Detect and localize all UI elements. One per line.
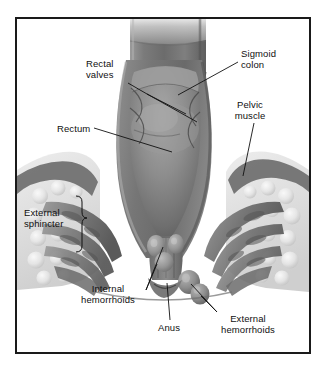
label-pelvic-muscle-line2: muscle — [235, 110, 266, 121]
label-pelvic-muscle: Pelvicmuscle — [222, 99, 278, 121]
label-pelvic-muscle-line1: Pelvic — [237, 99, 263, 110]
label-sigmoid-colon: Sigmoidcolon — [241, 48, 276, 70]
label-external-sphincter-line2: sphincter — [24, 218, 63, 229]
label-external-sphincter: Externalsphincter — [24, 207, 63, 229]
label-sigmoid-colon-line1: Sigmoid — [241, 48, 276, 59]
label-external-sphincter-line1: External — [24, 207, 60, 218]
anatomy-figure: Rectalvalves Sigmoidcolon Rectum Pelvicm… — [0, 0, 327, 375]
label-anus: Anus — [144, 322, 194, 333]
label-sigmoid-colon-line2: colon — [241, 59, 264, 70]
label-rectal-valves: Rectalvalves — [86, 58, 114, 80]
label-internal-hemorrhoids-line2: hemorrhoids — [81, 294, 135, 305]
label-rectum: Rectum — [57, 123, 90, 134]
label-external-hemorrhoids-line1: External — [230, 313, 266, 324]
label-external-hemorrhoids: Externalhemorrhoids — [196, 313, 300, 335]
label-internal-hemorrhoids: Internalhemorrhoids — [56, 283, 160, 305]
label-anus-text: Anus — [158, 322, 180, 333]
label-internal-hemorrhoids-line1: Internal — [92, 283, 125, 294]
label-external-hemorrhoids-line2: hemorrhoids — [221, 324, 275, 335]
label-rectal-valves-line2: valves — [86, 69, 114, 80]
label-rectum-text: Rectum — [57, 123, 90, 134]
label-rectal-valves-line1: Rectal — [86, 58, 114, 69]
